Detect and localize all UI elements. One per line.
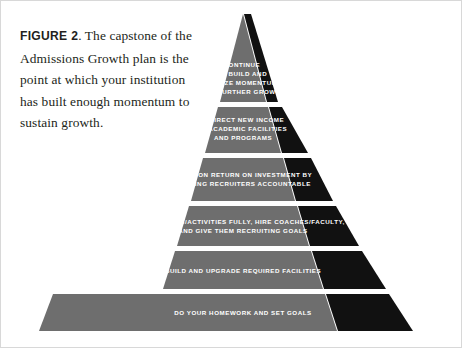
tier-1-line-4: FOR FURTHER GROWTH (201, 88, 285, 95)
pyramid-face-group: CONTINUE TO BUILD AND UTILIZE MOMENTUM F… (39, 14, 347, 331)
tier-4-line-2: AND GIVE THEM RECRUITING GOALS (178, 227, 308, 234)
tier-5-line-1: BUILD AND UPGRADE REQUIRED FACILITIES (165, 267, 321, 274)
tier-shadow-6 (326, 294, 413, 331)
tier-label-6: DO YOUR HOMEWORK AND SET GOALS (174, 309, 312, 316)
tier-2-line-3: AND PROGRAMS (214, 134, 272, 141)
tier-4-line-1: FUND TEAMS/ACTIVITIES FULLY, HIRE COACHE… (139, 218, 345, 225)
tier-1-line-2: TO BUILD AND (217, 70, 268, 77)
tier-label-5: BUILD AND UPGRADE REQUIRED FACILITIES (165, 267, 321, 274)
tier-shadow-5 (312, 251, 386, 289)
figure-container: FIGURE 2. The capstone of the Admissions… (0, 0, 462, 348)
tier-2-line-2: TO ACADEMIC FACILITIES (197, 125, 287, 132)
tier-1-line-3: UTILIZE MOMENTUM (206, 79, 277, 86)
tier-3-line-2: HOLDING RECRUITERS ACCOUNTABLE (175, 180, 311, 187)
tier-1-line-1: CONTINUE (224, 61, 261, 68)
tier-3-line-1: FOCUS ON RETURN ON INVESTMENT BY (172, 171, 313, 178)
pyramid-diagram: CONTINUE TO BUILD AND UTILIZE MOMENTUM F… (1, 1, 462, 348)
tier-6-line-1: DO YOUR HOMEWORK AND SET GOALS (174, 309, 312, 316)
tier-2-line-1: REDIRECT NEW INCOME (200, 116, 285, 123)
